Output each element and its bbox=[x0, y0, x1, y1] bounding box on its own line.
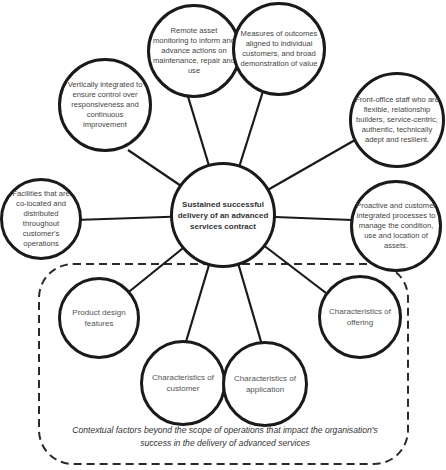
node-vertically-integrated: Vertically integrated to ensure control … bbox=[58, 58, 152, 152]
node-measures-of-outcomes: Measures of outcomes aligned to individu… bbox=[232, 2, 326, 96]
node-label: Facilities that are co-located and distr… bbox=[3, 189, 79, 249]
node-product-design-features: Product design features bbox=[58, 277, 140, 359]
node-proactive-processes: Proactive and customer integrated proces… bbox=[350, 180, 442, 272]
node-front-office-staff: Front-office staff who are flexible, rel… bbox=[349, 72, 445, 168]
node-label: Front-office staff who are flexible, rel… bbox=[352, 95, 442, 145]
node-label: Measures of outcomes aligned to individu… bbox=[235, 29, 323, 69]
node-label: Characteristics of customer bbox=[143, 372, 223, 394]
node-characteristics-of-customer: Characteristics of customer bbox=[140, 340, 226, 426]
node-remote-asset-monitoring: Remote asset monitoring to inform and ad… bbox=[147, 4, 241, 98]
node-characteristics-of-application: Characteristics of application bbox=[222, 341, 308, 427]
context-caption: Contextual factors beyond the scope of o… bbox=[60, 424, 390, 450]
node-label: Characteristics of offering bbox=[321, 306, 399, 328]
center-label: Sustained successful delivery of an adva… bbox=[173, 199, 273, 232]
node-label: Remote asset monitoring to inform and ad… bbox=[150, 26, 238, 76]
node-label: Product design features bbox=[61, 307, 137, 329]
node-label: Characteristics of application bbox=[225, 373, 305, 395]
node-facilities: Facilities that are co-located and distr… bbox=[0, 178, 82, 260]
node-label: Proactive and customer integrated proces… bbox=[353, 201, 439, 251]
node-label: Vertically integrated to ensure control … bbox=[61, 80, 149, 130]
node-characteristics-of-offering: Characteristics of offering bbox=[318, 275, 402, 359]
center-node: Sustained successful delivery of an adva… bbox=[170, 162, 276, 268]
advanced-services-diagram: Sustained successful delivery of an adva… bbox=[0, 0, 446, 470]
